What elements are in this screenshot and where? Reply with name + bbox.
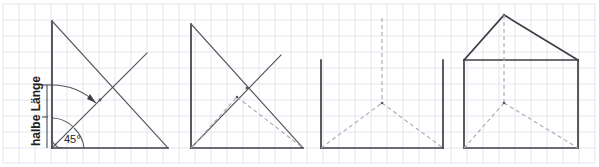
- panel-4-house-complete: [464, 15, 578, 148]
- panel2-upper-crossing-node: [246, 87, 249, 90]
- panel2-45-degree-ray: [191, 55, 281, 148]
- panel1-angle-arc: [52, 118, 73, 127]
- panel2-crossing-node: [236, 96, 239, 99]
- dimension-label-halbe-laenge: halbe Länge: [29, 76, 43, 146]
- construction-diagram: halbe Länge 45°: [0, 0, 599, 167]
- panel4-roof-left: [464, 15, 504, 60]
- panel3-peak-node: [381, 102, 384, 105]
- panel1-right-angle-dot: [55, 143, 56, 144]
- panel3-dashed-roof-left: [321, 103, 382, 148]
- grid-layer: [3, 4, 595, 163]
- panel3-dashed-roof-right: [382, 103, 443, 148]
- panel4-dashed-roof-left: [464, 103, 504, 148]
- angle-label-45: 45°: [64, 133, 81, 145]
- panel1-intersection-node: [99, 99, 102, 102]
- panel2-dashed-diagonal-up: [191, 97, 237, 148]
- panel4-center-node: [503, 102, 506, 105]
- grid-horizontal-lines: [3, 4, 595, 163]
- panel1-sweep-arrowhead: [87, 94, 96, 103]
- panel2-hypotenuse: [191, 24, 303, 148]
- panel2-dashed-diagonal-down: [237, 97, 303, 148]
- figure-canvas: halbe Länge 45°: [0, 0, 599, 167]
- panel-2-triangle-cross: [191, 24, 303, 148]
